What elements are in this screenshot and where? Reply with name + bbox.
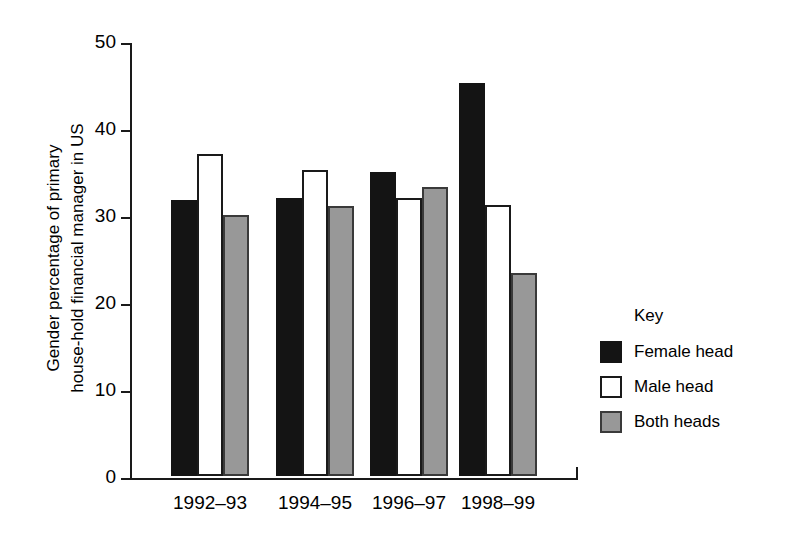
bar [422,187,448,476]
legend-item-label: Male head [634,376,713,398]
bar [302,170,328,476]
bar [223,215,249,476]
y-axis-title-text: Gender percentage of primary house-hold … [42,123,90,392]
legend-title: Key [634,305,780,327]
legend: Key Female headMale headBoth heads [600,305,780,446]
y-tick-label: 30 [95,204,116,228]
y-tick-mark [121,391,130,393]
bar [485,205,511,476]
y-tick-mark [121,43,130,45]
y-tick-label: 10 [95,378,116,402]
x-axis-line [130,478,578,480]
legend-item: Male head [600,376,780,398]
y-tick-mark [121,130,130,132]
x-tick-label: 1994–95 [265,491,365,515]
y-tick-mark [121,304,130,306]
bar [370,172,396,477]
legend-swatch-male [600,376,622,398]
bar [511,273,537,476]
bar [396,198,422,476]
legend-swatch-female [600,341,622,363]
legend-item-label: Both heads [634,411,720,433]
y-axis-line [130,43,132,478]
bar [197,154,223,476]
x-tick-label: 1992–93 [160,491,260,515]
x-tick-label: 1998–99 [448,491,548,515]
plot-area: 01020304050 1992–931994–951996–971998–99 [130,43,578,478]
legend-item: Female head [600,341,780,363]
bar [328,206,354,476]
bar-chart: Gender percentage of primary house-hold … [0,0,786,538]
y-tick-label: 20 [95,291,116,315]
y-tick-mark [121,217,130,219]
x-tick-label: 1996–97 [359,491,459,515]
y-tick-label: 40 [95,117,116,141]
bar [459,83,485,476]
legend-item-label: Female head [634,341,733,363]
legend-swatch-both [600,411,622,433]
x-axis-endcap [576,467,578,480]
y-tick-label: 50 [95,30,116,54]
bar [276,198,302,476]
y-axis-title: Gender percentage of primary house-hold … [18,38,114,478]
legend-entries: Female headMale headBoth heads [600,341,780,433]
y-tick-mark [121,478,130,480]
legend-item: Both heads [600,411,780,433]
bar [171,200,197,476]
y-tick-label: 0 [105,465,116,489]
